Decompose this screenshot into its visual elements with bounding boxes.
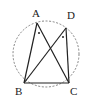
angle-mark-a <box>38 32 40 34</box>
angle-mark-d <box>62 36 64 38</box>
geometry-diagram: A D B C <box>0 0 87 100</box>
label-b: B <box>15 85 22 97</box>
label-d: D <box>67 9 75 21</box>
segment-dc <box>66 28 69 83</box>
label-a: A <box>32 7 40 19</box>
segment-ac <box>37 23 69 83</box>
label-c: C <box>70 85 77 97</box>
